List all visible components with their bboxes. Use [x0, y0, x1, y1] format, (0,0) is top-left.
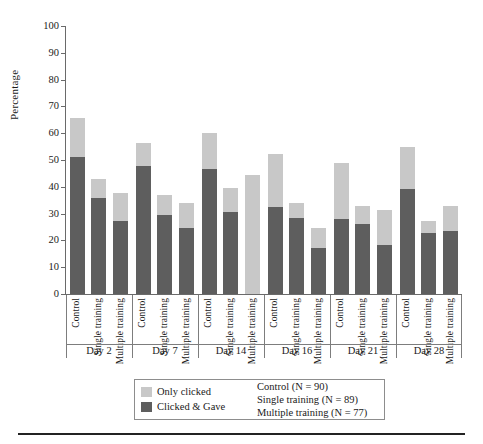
- day-separator: [132, 344, 133, 358]
- bar-segment-clicked-and-gave[interactable]: [377, 245, 392, 294]
- bar-segment-clicked-and-gave[interactable]: [157, 215, 172, 294]
- y-tick-label: 90: [49, 48, 60, 59]
- category-label-cell: Single training: [352, 296, 374, 344]
- bar-segment-only-clicked[interactable]: [268, 154, 283, 207]
- category-label-cell: Control: [66, 296, 88, 344]
- legend-item[interactable]: Only clicked: [141, 387, 257, 398]
- bar-slot: [242, 26, 264, 294]
- bar-segment-clicked-and-gave[interactable]: [113, 221, 128, 294]
- bar-segment-clicked-and-gave[interactable]: [179, 228, 194, 294]
- day-label-cell: Day 16: [264, 345, 330, 358]
- bar-slot: [110, 26, 132, 294]
- bar-segment-only-clicked[interactable]: [157, 195, 172, 216]
- stacked-bar[interactable]: [377, 210, 392, 294]
- stacked-bar[interactable]: [91, 179, 106, 294]
- category-label-cell: Multiple training: [440, 296, 462, 344]
- bar-slot: [198, 26, 220, 294]
- bar-segment-only-clicked[interactable]: [202, 133, 217, 168]
- stacked-bar[interactable]: [179, 203, 194, 294]
- category-label-cell: Multiple training: [110, 296, 132, 344]
- bar-slot: [374, 26, 396, 294]
- stacked-bar[interactable]: [70, 118, 85, 294]
- stacked-bar[interactable]: [223, 188, 238, 294]
- category-label: Control: [270, 298, 280, 328]
- category-label-cell: Single training: [154, 296, 176, 344]
- sample-size-line: Multiple training (N = 77): [257, 407, 367, 419]
- category-label-cell: Multiple training: [374, 296, 396, 344]
- bar-segment-only-clicked[interactable]: [179, 203, 194, 228]
- category-label-cell: Single training: [220, 296, 242, 344]
- bar-slot: [132, 26, 154, 294]
- day-separator: [396, 344, 397, 358]
- bar-groups: [66, 26, 462, 294]
- bar-slot: [418, 26, 440, 294]
- day-label-cell: Day 2: [66, 345, 132, 358]
- category-label: Control: [138, 298, 148, 328]
- day-label: Day 16: [282, 346, 313, 357]
- stacked-bar[interactable]: [202, 133, 217, 294]
- legend-label: Clicked & Gave: [157, 402, 225, 413]
- stacked-bar[interactable]: [400, 147, 415, 294]
- stacked-bar[interactable]: [334, 163, 349, 294]
- bar-segment-only-clicked[interactable]: [311, 228, 326, 249]
- bar-segment-clicked-and-gave[interactable]: [91, 198, 106, 294]
- bar-segment-only-clicked[interactable]: [355, 206, 370, 224]
- stacked-bar[interactable]: [157, 195, 172, 294]
- stacked-bar[interactable]: [113, 193, 128, 294]
- bar-slot: [352, 26, 374, 294]
- bar-slot: [66, 26, 88, 294]
- bar-segment-clicked-and-gave[interactable]: [136, 166, 151, 294]
- bar-segment-clicked-and-gave[interactable]: [421, 233, 436, 294]
- bar-segment-only-clicked[interactable]: [136, 143, 151, 166]
- bar-segment-only-clicked[interactable]: [70, 118, 85, 157]
- y-tick-label: 100: [43, 21, 59, 32]
- bar-group: [396, 26, 462, 294]
- category-label: Control: [336, 298, 346, 328]
- category-group: ControlSingle trainingMultiple training: [132, 296, 198, 344]
- stacked-bar[interactable]: [245, 175, 260, 294]
- category-label-cell: Single training: [88, 296, 110, 344]
- bar-segment-clicked-and-gave[interactable]: [334, 219, 349, 294]
- day-label: Day 21: [348, 346, 379, 357]
- bar-segment-clicked-and-gave[interactable]: [400, 189, 415, 294]
- bar-segment-clicked-and-gave[interactable]: [443, 231, 458, 294]
- bar-segment-only-clicked[interactable]: [421, 221, 436, 233]
- stacked-bar[interactable]: [443, 206, 458, 294]
- category-label-cell: Multiple training: [308, 296, 330, 344]
- bar-segment-clicked-and-gave[interactable]: [223, 212, 238, 294]
- y-tick-label: 0: [54, 289, 59, 300]
- legend-item[interactable]: Clicked & Gave: [141, 402, 257, 413]
- bar-segment-clicked-and-gave[interactable]: [311, 248, 326, 294]
- stacked-bar[interactable]: [268, 154, 283, 294]
- bar-segment-only-clicked[interactable]: [443, 206, 458, 231]
- bar-segment-only-clicked[interactable]: [91, 179, 106, 197]
- bar-segment-only-clicked[interactable]: [113, 193, 128, 221]
- bar-segment-only-clicked[interactable]: [400, 147, 415, 189]
- stacked-bar[interactable]: [311, 228, 326, 294]
- chart-figure: Percentage 0102030405060708090100 Contro…: [0, 0, 483, 444]
- y-tick-label: 60: [49, 128, 60, 139]
- bar-segment-clicked-and-gave[interactable]: [355, 224, 370, 294]
- stacked-bar[interactable]: [289, 203, 304, 294]
- category-label-band: ControlSingle trainingMultiple trainingC…: [66, 296, 462, 344]
- stacked-bar[interactable]: [355, 206, 370, 294]
- y-tick-label: 40: [49, 182, 60, 193]
- bar-segment-only-clicked[interactable]: [223, 188, 238, 212]
- bar-segment-clicked-and-gave[interactable]: [289, 218, 304, 294]
- category-label-cell: Control: [264, 296, 286, 344]
- bar-segment-only-clicked[interactable]: [245, 175, 260, 294]
- day-label-cell: Day 28: [396, 345, 462, 358]
- day-label: Day 14: [216, 346, 247, 357]
- bar-slot: [264, 26, 286, 294]
- bar-segment-only-clicked[interactable]: [334, 163, 349, 219]
- bar-segment-only-clicked[interactable]: [289, 203, 304, 218]
- bar-segment-clicked-and-gave[interactable]: [202, 169, 217, 294]
- stacked-bar[interactable]: [136, 143, 151, 294]
- day-separator: [198, 344, 199, 358]
- bar-segment-clicked-and-gave[interactable]: [70, 157, 85, 294]
- stacked-bar[interactable]: [421, 221, 436, 294]
- bar-segment-clicked-and-gave[interactable]: [268, 207, 283, 294]
- category-label-cell: Control: [396, 296, 418, 344]
- category-label: Control: [72, 298, 82, 328]
- bar-segment-only-clicked[interactable]: [377, 210, 392, 245]
